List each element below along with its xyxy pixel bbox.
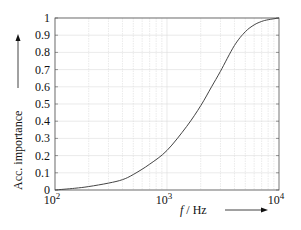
x-axis-arrow-icon xyxy=(261,208,268,213)
y-axis-arrow-icon xyxy=(16,34,21,41)
svg-text:Acc. importance: Acc. importance xyxy=(11,111,25,190)
x-tick-label: 102 xyxy=(44,191,61,207)
y-tick-label: 0.8 xyxy=(35,45,50,59)
y-tick-label: 0.7 xyxy=(35,63,50,77)
x-axis-ticks: 102103104 xyxy=(44,191,285,207)
y-tick-label: 0.9 xyxy=(35,28,50,42)
y-tick-label: 0.1 xyxy=(35,166,50,180)
y-tick-label: 0.3 xyxy=(35,131,50,145)
y-tick-label: 0.5 xyxy=(35,97,50,111)
y-tick-label: 0.4 xyxy=(35,114,50,128)
x-tick-label: 104 xyxy=(268,191,285,207)
x-axis-label: f / Hz xyxy=(180,203,268,217)
y-tick-label: 0.6 xyxy=(35,80,50,94)
y-axis-label: Acc. importance xyxy=(11,34,25,190)
x-tick-label: 103 xyxy=(156,191,173,207)
y-tick-label: 0.2 xyxy=(35,149,50,163)
line-chart: 00.10.20.30.40.50.60.70.80.91 102103104 … xyxy=(0,0,301,230)
y-tick-label: 1 xyxy=(44,11,50,25)
grid-lines xyxy=(55,18,279,190)
svg-text:f / Hz: f / Hz xyxy=(180,203,207,217)
